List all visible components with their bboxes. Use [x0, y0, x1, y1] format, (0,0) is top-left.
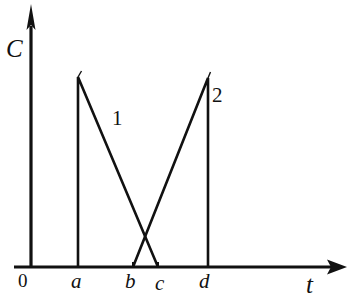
chart-canvas: [0, 0, 354, 301]
x-axis-label: t: [306, 272, 313, 297]
curve-2-apex-spur: [208, 72, 211, 78]
origin-label: 0: [18, 271, 28, 290]
tick-label-d: d: [199, 271, 210, 292]
curve-label-2: 2: [212, 85, 223, 106]
curve-2-path: [133, 78, 208, 267]
tick-label-b: b: [125, 271, 136, 292]
curve-label-1: 1: [112, 108, 123, 129]
tick-label-c: c: [155, 273, 164, 294]
curve-1-apex-spur: [78, 71, 82, 77]
y-axis-label: C: [6, 36, 23, 61]
tick-label-a: a: [71, 271, 82, 292]
line-chart-figure: C t 0 a b c d 1 2: [0, 0, 354, 301]
